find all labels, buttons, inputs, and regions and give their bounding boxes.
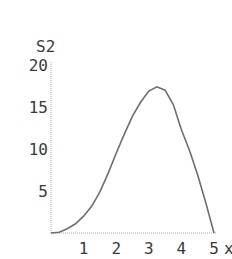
x-axis-label: x [224,239,232,258]
x-tick-label: 4 [177,239,187,258]
y-tick-label: 10 [29,140,48,159]
s2-curve [51,87,214,233]
y-tick-labels: 5101520 [29,56,48,201]
y-tick-label: 20 [29,56,48,75]
y-tick-label: 15 [29,98,48,117]
y-tick-label: 5 [38,182,48,201]
x-tick-label: 1 [79,239,89,258]
x-tick-label: 2 [111,239,121,258]
x-tick-label: 3 [144,239,154,258]
x-tick-labels: 12345 [79,239,219,258]
x-tick-label: 5 [209,239,219,258]
y-axis-label: S2 [36,37,55,56]
s2-line-chart: 12345 5101520 S2 x [0,0,232,259]
